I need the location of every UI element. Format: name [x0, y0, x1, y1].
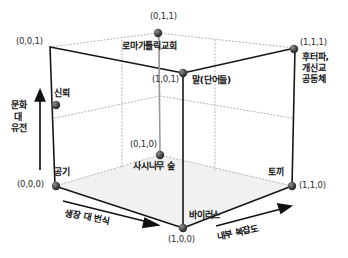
diagram-canvas: (0,1,1) (0,0,1) (1,1,1) (1,0,1) (0,1,0) … — [0, 0, 348, 258]
back-vertical-connector — [159, 36, 160, 153]
vertex-dot-101 — [179, 69, 187, 77]
vertex-dot-111 — [290, 45, 298, 53]
vertex-dot-000 — [52, 182, 60, 190]
vertex-dot-010 — [156, 151, 164, 159]
coord-label-011: (0,1,1) — [150, 12, 177, 22]
entity-label-words: 말(단어들) — [192, 75, 231, 85]
vertex-dot-011 — [154, 29, 162, 37]
coord-label-010: (0,1,0) — [130, 140, 157, 150]
vertex-dot-100 — [179, 224, 187, 232]
entity-label-hutterites: 후터파, 개신교 공동체 — [302, 52, 329, 85]
entity-label-trust: 신뢰 — [54, 88, 70, 98]
vertex-dot-trust — [52, 101, 60, 109]
vertex-dot-110 — [288, 182, 296, 190]
coord-label-111: (1,1,1) — [300, 38, 327, 48]
coord-label-110: (1,1,0) — [299, 181, 326, 191]
vertical-axis-arrow — [35, 90, 44, 170]
coord-label-101: (1,0,1) — [152, 75, 179, 85]
axis-label-culture-vs-genetics: 문화 대 유전 — [11, 100, 25, 135]
entity-label-aspen-forest: 사시나무 숲 — [133, 161, 175, 171]
entity-label-roman-catholic-church: 로마가톨릭교회 — [122, 41, 177, 51]
coord-label-001: (0,0,1) — [16, 37, 43, 47]
entity-label-air: 공기 — [54, 167, 70, 177]
coord-label-100: (1,0,0) — [168, 235, 195, 245]
cube-graphic — [0, 0, 348, 258]
entity-label-rabbit: 토끼 — [268, 167, 284, 177]
entity-label-virus: 바이러스 — [189, 210, 220, 220]
coord-label-000: (0,0,0) — [17, 180, 44, 190]
